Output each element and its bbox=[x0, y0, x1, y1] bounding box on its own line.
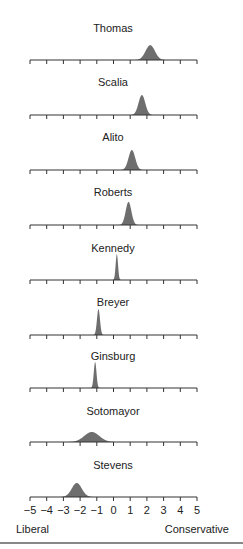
density-area bbox=[30, 45, 197, 60]
ideal-point-chart: ThomasScaliaAlitoRobertsKennedyBreyerGin… bbox=[0, 0, 243, 549]
tick-label: 0 bbox=[110, 504, 116, 516]
tick-label: −3 bbox=[57, 504, 70, 516]
tick-label: 3 bbox=[161, 504, 167, 516]
panel-title: Roberts bbox=[94, 186, 133, 198]
tick-label: 2 bbox=[144, 504, 150, 516]
density-area bbox=[30, 432, 197, 442]
density-area bbox=[30, 309, 197, 335]
density-area bbox=[30, 483, 197, 497]
tick-label: 1 bbox=[127, 504, 133, 516]
panel-title: Sotomayor bbox=[86, 405, 140, 417]
panel-title: Ginsburg bbox=[91, 350, 136, 362]
liberal-label: Liberal bbox=[16, 523, 49, 535]
conservative-label: Conservative bbox=[165, 523, 229, 535]
density-area bbox=[30, 362, 197, 388]
panel-sotomayor: Sotomayor bbox=[30, 405, 197, 446]
panel-title: Stevens bbox=[93, 459, 133, 471]
panel-kennedy: Kennedy bbox=[30, 242, 197, 284]
panel-title: Thomas bbox=[93, 22, 133, 34]
density-area bbox=[30, 150, 197, 170]
panel-ginsburg: Ginsburg bbox=[30, 350, 197, 392]
density-area bbox=[30, 254, 197, 280]
panel-title: Alito bbox=[102, 131, 123, 143]
tick-label: 4 bbox=[177, 504, 183, 516]
density-area bbox=[30, 95, 197, 115]
bottom-rule bbox=[0, 542, 243, 544]
panel-title: Breyer bbox=[97, 296, 130, 308]
tick-label: −1 bbox=[91, 504, 104, 516]
tick-label: −4 bbox=[40, 504, 53, 516]
tick-label: −2 bbox=[74, 504, 87, 516]
panel-thomas: Thomas bbox=[30, 22, 197, 64]
panel-title: Scalia bbox=[98, 76, 129, 88]
tick-label: −5 bbox=[24, 504, 37, 516]
tick-label: 5 bbox=[194, 504, 200, 516]
panel-title: Kennedy bbox=[91, 242, 135, 254]
panel-alito: Alito bbox=[30, 131, 197, 174]
panel-roberts: Roberts bbox=[30, 186, 197, 229]
density-area bbox=[30, 202, 197, 225]
panel-breyer: Breyer bbox=[30, 296, 197, 339]
panel-stevens: Stevens−5−4−3−2−1012345LiberalConservati… bbox=[16, 459, 229, 535]
panel-scalia: Scalia bbox=[30, 76, 197, 119]
